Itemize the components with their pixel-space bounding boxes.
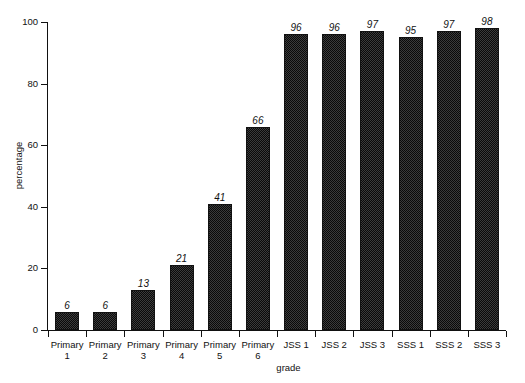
bar-value-label: 95 [405,26,416,36]
bar-value-label: 41 [214,193,225,203]
category-label-line: 6 [239,350,277,361]
category-label-line: SSS 3 [473,339,500,350]
x-axis-category-label: JSS 2 [315,339,353,350]
y-axis-tick [41,145,48,146]
y-axis-tick-label: 0 [0,325,38,335]
bar-value-label: 97 [367,20,378,30]
x-axis-tick [353,331,354,337]
bar: 97 [437,31,461,330]
x-axis-tick [124,331,125,337]
bar-value-label: 98 [481,17,492,27]
category-label-line: 2 [86,350,124,361]
y-axis-tick [41,330,48,331]
category-label-line: Primary [127,339,160,350]
x-axis-category-label: SSS 3 [468,339,506,350]
category-label-line: JSS 1 [283,339,308,350]
bar-value-label: 66 [252,116,263,126]
bar: 98 [475,28,499,330]
bar: 96 [322,34,346,330]
x-axis-category-label: Primary2 [86,339,124,361]
category-label-line: Primary [89,339,122,350]
y-axis-tick [41,207,48,208]
bar-value-label: 6 [64,301,70,311]
bar: 21 [170,265,194,330]
plot-area: 6613214166969697959798 [48,22,506,330]
bar-value-label: 96 [329,23,340,33]
y-axis-title: percentage [13,126,24,206]
y-axis-tick [41,84,48,85]
category-label-line: Primary [242,339,275,350]
x-axis-category-label: Primary6 [239,339,277,361]
category-label-line: Primary [203,339,236,350]
x-axis-category-label: SSS 2 [430,339,468,350]
x-axis-tick [239,331,240,337]
category-label-line: Primary [165,339,198,350]
bar: 66 [246,127,270,330]
bar: 97 [360,31,384,330]
bar: 6 [55,312,79,330]
category-label-line: SSS 1 [397,339,424,350]
x-axis-tick [506,331,507,337]
bar: 96 [284,34,308,330]
x-axis-category-label: Primary5 [201,339,239,361]
category-label-line: 3 [124,350,162,361]
bar: 95 [399,37,423,330]
x-axis-tick [468,331,469,337]
x-axis-category-label: Primary1 [48,339,86,361]
x-axis-tick [201,331,202,337]
x-axis-tick [277,331,278,337]
bar-value-label: 97 [443,20,454,30]
bar: 41 [208,204,232,330]
x-axis-category-label: Primary4 [163,339,201,361]
cropped-caption-text [0,0,525,3]
x-axis-category-label: JSS 1 [277,339,315,350]
y-axis-tick-label: 80 [0,79,38,89]
category-label-line: Primary [51,339,84,350]
category-label-line: 4 [163,350,201,361]
x-axis-tick [48,331,49,337]
y-axis-tick [41,22,48,23]
x-axis-category-label: SSS 1 [392,339,430,350]
bar: 6 [93,312,117,330]
category-label-line: JSS 2 [322,339,347,350]
x-axis-tick [163,331,164,337]
x-axis-tick [430,331,431,337]
x-axis-title: grade [0,362,525,373]
x-axis-tick [392,331,393,337]
bar-value-label: 13 [138,279,149,289]
y-axis-tick-label: 20 [0,263,38,273]
x-axis-category-label: Primary3 [124,339,162,361]
bar-chart: 020406080100 percentage grade 6613214166… [0,0,525,383]
bar-value-label: 6 [102,301,108,311]
category-label-line: SSS 2 [435,339,462,350]
y-axis-tick [41,268,48,269]
bar: 13 [131,290,155,330]
category-label-line: 5 [201,350,239,361]
x-axis-category-label: JSS 3 [353,339,391,350]
bar-value-label: 96 [291,23,302,33]
x-axis-tick [86,331,87,337]
bar-value-label: 21 [176,254,187,264]
y-axis-tick-label: 100 [0,17,38,27]
x-axis-tick [315,331,316,337]
category-label-line: 1 [48,350,86,361]
category-label-line: JSS 3 [360,339,385,350]
